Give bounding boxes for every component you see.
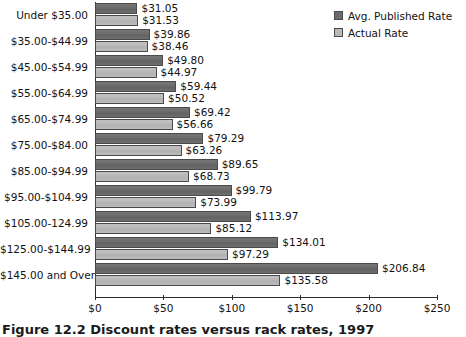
bar-group: $113.97$85.12 [95, 210, 437, 236]
bar-actual [95, 223, 211, 234]
bar-value-label: $38.46 [148, 40, 189, 53]
bar-actual [95, 93, 164, 104]
bar-published [95, 107, 190, 118]
category-label: $65.00-$74.99 [0, 106, 92, 132]
x-axis-line [95, 297, 437, 298]
x-tick-mark [300, 295, 301, 300]
bar-published [95, 237, 278, 248]
bar-value-label: $31.53 [138, 14, 179, 27]
bar-actual [95, 171, 189, 182]
x-tick-label: $0 [88, 302, 101, 314]
bar-value-label: $73.99 [196, 196, 237, 209]
x-tick-mark [437, 295, 438, 300]
legend-item: Actual Rate [334, 25, 466, 40]
chart-legend: Avg. Published RateActual Rate [334, 8, 466, 42]
bar-published [95, 159, 218, 170]
bar-published [95, 81, 176, 92]
bar-actual [95, 197, 196, 208]
category-label: $95.00-$104.99 [0, 184, 92, 210]
category-axis-labels: Under $35.00$35.00-$44.99$45.00-$54.99$5… [0, 2, 92, 288]
bar-group: $79.29$63.26 [95, 132, 437, 158]
bar-actual [95, 275, 280, 286]
category-label: $45.00-$54.99 [0, 54, 92, 80]
bar-published [95, 211, 251, 222]
bar-value-label: $97.29 [228, 248, 269, 261]
bar-actual [95, 67, 157, 78]
bar-actual [95, 145, 182, 156]
bar-value-label: $50.52 [164, 92, 205, 105]
category-label: $105.00-124.99 [0, 210, 92, 236]
bar-group: $49.80$44.97 [95, 54, 437, 80]
bar-group: $89.65$68.73 [95, 158, 437, 184]
x-tick-mark [232, 295, 233, 300]
bar-group: $206.84$135.58 [95, 262, 437, 288]
bar-group: $134.01$97.29 [95, 236, 437, 262]
legend-label: Avg. Published Rate [348, 10, 452, 22]
category-label: $145.00 and Over [0, 262, 92, 288]
legend-item: Avg. Published Rate [334, 8, 466, 23]
bar-actual [95, 249, 228, 260]
bar-actual [95, 41, 148, 52]
bar-published [95, 185, 232, 196]
bar-published [95, 3, 137, 14]
legend-swatch-icon [334, 28, 343, 37]
category-label: Under $35.00 [0, 2, 92, 28]
legend-label: Actual Rate [348, 27, 408, 39]
category-label: $85.00-$94.99 [0, 158, 92, 184]
category-label: $75.00-$84.00 [0, 132, 92, 158]
bar-value-label: $68.73 [189, 170, 230, 183]
bar-published [95, 29, 150, 40]
x-tick-label: $50 [153, 302, 173, 314]
x-tick-label: $100 [218, 302, 245, 314]
x-tick-label: $250 [424, 302, 451, 314]
bar-groups: $31.05$31.53$39.86$38.46$49.80$44.97$59.… [95, 2, 437, 288]
x-tick-label: $150 [287, 302, 314, 314]
plot-area: $31.05$31.53$39.86$38.46$49.80$44.97$59.… [95, 2, 437, 298]
bar-group: $99.79$73.99 [95, 184, 437, 210]
category-label: $55.00-$64.99 [0, 80, 92, 106]
bar-published [95, 263, 378, 274]
bar-value-label: $135.58 [280, 274, 327, 287]
bar-value-label: $56.66 [173, 118, 214, 131]
x-tick-label: $200 [355, 302, 382, 314]
bar-group: $69.42$56.66 [95, 106, 437, 132]
category-label: $35.00-$44.99 [0, 28, 92, 54]
category-label: $125.00-$144.99 [0, 236, 92, 262]
bar-published [95, 55, 163, 66]
bar-value-label: $113.97 [251, 210, 298, 223]
x-tick-mark [95, 295, 96, 300]
bar-actual [95, 119, 173, 130]
bar-value-label: $44.97 [157, 66, 198, 79]
x-tick-mark [369, 295, 370, 300]
figure-caption: Figure 12.2 Discount rates versus rack r… [2, 322, 374, 337]
x-tick-mark [163, 295, 164, 300]
bar-value-label: $206.84 [378, 262, 425, 275]
legend-swatch-icon [334, 11, 343, 20]
bar-group: $59.44$50.52 [95, 80, 437, 106]
bar-actual [95, 15, 138, 26]
bar-value-label: $85.12 [211, 222, 252, 235]
bar-value-label: $63.26 [182, 144, 223, 157]
bar-value-label: $99.79 [232, 184, 273, 197]
bar-value-label: $134.01 [278, 236, 325, 249]
bar-published [95, 133, 203, 144]
